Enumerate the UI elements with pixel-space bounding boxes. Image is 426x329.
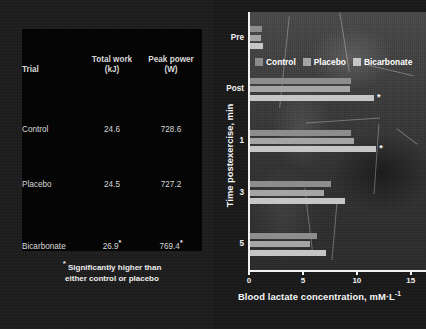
x-ticklabel: 0: [238, 276, 260, 285]
bar-significance-star: *: [377, 94, 381, 100]
right-panel-chart: Control Placebo Bicarbonate ** PrePost13…: [213, 0, 426, 329]
header-peak-power-line2: (W): [140, 65, 202, 75]
bar-bicarbonate-pre: [250, 43, 263, 49]
cell-total-work-placebo: 24.5: [84, 134, 140, 189]
legend-item-placebo: Placebo: [303, 57, 346, 67]
row-trial-placebo: Placebo: [22, 134, 84, 189]
bar-placebo-pre: [250, 35, 261, 41]
footnote-line2: either control or placebo: [65, 274, 159, 283]
x-tick: [410, 270, 412, 275]
header-peak-power-line1: Peak power: [140, 55, 202, 65]
bar-control-pre: [250, 26, 262, 32]
x-axis-line: [248, 270, 426, 272]
x-tick: [248, 270, 250, 275]
table-header-row: Trial Total work (kJ) Peak power (W): [22, 29, 202, 75]
legend-swatch-bicarbonate: [353, 58, 361, 66]
x-axis-title-text: Blood lactate concentration, mM·L: [238, 291, 395, 302]
bar-bicarbonate-post: [250, 95, 374, 101]
significance-star: *: [119, 239, 122, 246]
table-footnote: * Significantly higher than either contr…: [22, 258, 202, 284]
bar-control-3: [250, 181, 331, 187]
cell-total-work-control: 24.6: [84, 75, 140, 134]
header-peak-power: Peak power (W): [140, 29, 202, 75]
legend-swatch-placebo: [303, 58, 311, 66]
significance-star: *: [180, 239, 183, 246]
header-total-work-line1: Total work: [84, 55, 140, 65]
header-total-work-line2: (kJ): [84, 65, 140, 75]
cell-value: 769.4: [159, 242, 180, 251]
bar-placebo-3: [250, 190, 324, 196]
bar-control-5: [250, 233, 317, 239]
x-axis-title: Blood lactate concentration, mM·L-1: [213, 290, 426, 302]
table-row: Bicarbonate 26.9* 769.4*: [22, 189, 202, 251]
y-ticklabel-pre: Pre: [213, 33, 244, 42]
figure-root: Trial Total work (kJ) Peak power (W) Con…: [0, 0, 426, 329]
x-ticklabel: 10: [346, 276, 368, 285]
row-trial-control: Control: [22, 75, 84, 134]
results-table-card: Trial Total work (kJ) Peak power (W) Con…: [22, 29, 202, 251]
y-axis-title: Time postexercise, min: [224, 56, 235, 256]
chart-legend: Control Placebo Bicarbonate: [255, 57, 412, 67]
header-trial: Trial: [22, 29, 84, 75]
header-total-work: Total work (kJ): [84, 29, 140, 75]
bar-significance-star: *: [379, 145, 383, 151]
footnote-line1: Significantly higher than: [68, 263, 161, 272]
cell-peak-power-placebo: 727.2: [140, 134, 202, 189]
cell-value: 728.6: [161, 125, 182, 134]
legend-label-bicarbonate: Bicarbonate: [364, 57, 412, 67]
legend-label-placebo: Placebo: [314, 57, 346, 67]
cell-value: 727.2: [161, 180, 182, 189]
x-axis-title-superscript: -1: [395, 290, 401, 297]
x-ticklabel: 5: [292, 276, 314, 285]
photo-contour: [396, 128, 417, 144]
bar-bicarbonate-1: [250, 146, 376, 152]
results-table: Trial Total work (kJ) Peak power (W) Con…: [22, 29, 202, 251]
cell-value: 26.9: [103, 242, 119, 251]
cell-total-work-bicarbonate: 26.9*: [84, 189, 140, 251]
photo-contour: [306, 117, 380, 123]
legend-label-control: Control: [266, 57, 296, 67]
photo-contour: [331, 202, 337, 260]
bar-control-1: [250, 130, 351, 136]
photo-contour: [374, 124, 380, 194]
bar-bicarbonate-3: [250, 198, 345, 204]
x-ticklabel: 15: [400, 276, 422, 285]
cell-peak-power-control: 728.6: [140, 75, 202, 134]
x-tick: [302, 270, 304, 275]
cell-peak-power-bicarbonate: 769.4*: [140, 189, 202, 251]
table-row: Placebo 24.5 727.2: [22, 134, 202, 189]
legend-item-control: Control: [255, 57, 296, 67]
bar-bicarbonate-5: [250, 250, 326, 256]
legend-swatch-control: [255, 58, 263, 66]
bar-control-post: [250, 78, 351, 84]
left-panel-table: Trial Total work (kJ) Peak power (W) Con…: [0, 0, 213, 329]
cell-value: 24.6: [104, 125, 120, 134]
bar-placebo-1: [250, 138, 354, 144]
cell-value: 24.5: [104, 180, 120, 189]
x-tick: [356, 270, 358, 275]
bar-placebo-post: [250, 86, 350, 92]
table-row: Control 24.6 728.6: [22, 75, 202, 134]
row-trial-bicarbonate: Bicarbonate: [22, 189, 84, 251]
footnote-star: *: [63, 259, 66, 268]
bar-placebo-5: [250, 241, 310, 247]
legend-item-bicarbonate: Bicarbonate: [353, 57, 412, 67]
